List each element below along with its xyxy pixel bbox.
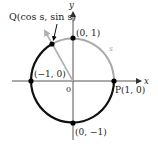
label-q: Q(cos s, sin s) xyxy=(9,11,76,22)
point-bottom xyxy=(70,120,75,125)
label-origin: 0 xyxy=(66,85,71,94)
label-y-axis: y xyxy=(68,0,74,10)
point-right-p xyxy=(111,78,116,83)
label-arc-s: s xyxy=(109,44,113,53)
point-q xyxy=(49,41,54,46)
label-x-axis: x xyxy=(144,76,149,86)
label-bottom: (0, −1) xyxy=(75,127,107,137)
label-left: (−1, 0) xyxy=(34,69,66,79)
label-right-p: P(1, 0) xyxy=(115,85,145,95)
unit-circle-diagram: Q(cos s, sin s) (0, 1) (−1, 0) P(1, 0) (… xyxy=(0,0,158,144)
point-top xyxy=(70,35,75,40)
label-top: (0, 1) xyxy=(76,28,100,38)
point-left xyxy=(28,78,33,83)
q-pointer-arrow xyxy=(54,24,58,40)
